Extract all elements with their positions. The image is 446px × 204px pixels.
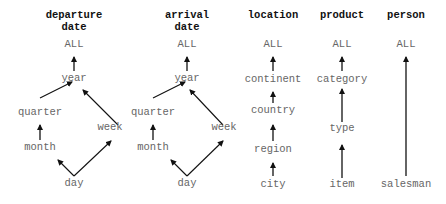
node-departure-day: day: [65, 177, 84, 189]
header-line: product: [320, 9, 364, 21]
node-location-region: region: [254, 143, 292, 155]
header-arrival-date: arrivaldate: [147, 9, 227, 33]
header-person: person: [366, 9, 446, 21]
header-departure-date: departuredate: [34, 9, 114, 33]
node-departure-week: week: [97, 121, 122, 133]
node-product-item: item: [329, 178, 354, 190]
node-location-city: city: [260, 178, 285, 190]
node-product-category: category: [317, 73, 367, 85]
node-departure-month: month: [24, 141, 56, 153]
node-arrival-year: year: [174, 72, 199, 84]
node-location-continent: continent: [245, 73, 302, 85]
node-arrival-month: month: [137, 141, 169, 153]
node-arrival-week: week: [211, 121, 236, 133]
node-arrival-day: day: [178, 177, 197, 189]
node-departure-year: year: [61, 72, 86, 84]
concept-hierarchy-diagram: departuredate arrivaldate location produ…: [0, 0, 446, 204]
header-location: location: [233, 9, 313, 21]
header-line: location: [248, 9, 298, 21]
node-departure-all: ALL: [65, 38, 84, 50]
header-line: departure: [46, 9, 103, 21]
node-location-country: country: [251, 104, 295, 116]
node-departure-quarter: quarter: [18, 106, 62, 118]
header-line: arrival: [165, 9, 209, 21]
node-product-all: ALL: [333, 38, 352, 50]
node-arrival-all: ALL: [178, 38, 197, 50]
header-line: date: [174, 21, 199, 33]
node-person-salesman: salesman: [381, 178, 431, 190]
node-arrival-quarter: quarter: [131, 106, 175, 118]
node-location-all: ALL: [264, 38, 283, 50]
header-line: date: [61, 21, 86, 33]
node-product-type: type: [329, 122, 354, 134]
header-line: person: [387, 9, 425, 21]
node-person-all: ALL: [397, 38, 416, 50]
